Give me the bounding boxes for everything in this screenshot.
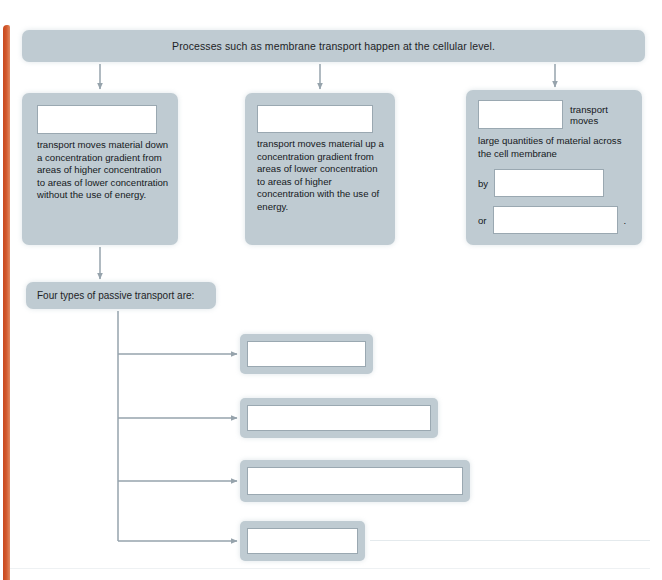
passive-type-answer-box-3[interactable] [240, 460, 470, 502]
active-transport-description: transport moves material up a concentrat… [257, 138, 386, 214]
worksheet-page: Processes such as membrane transport hap… [0, 0, 662, 580]
passive-type-input-3[interactable] [247, 467, 463, 495]
passive-type-input-1[interactable] [247, 341, 366, 367]
bulk-transport-or-label: or [478, 215, 487, 226]
top-banner: Processes such as membrane transport hap… [22, 30, 645, 62]
panel-active-transport: transport moves material up a concentrat… [245, 93, 395, 245]
passive-type-answer-box-2[interactable] [240, 398, 438, 438]
passive-transport-term-input[interactable] [37, 105, 157, 134]
bulk-transport-period: . [624, 215, 627, 226]
panel-passive-transport: transport moves material down a concentr… [22, 93, 178, 245]
passive-type-answer-box-1[interactable] [240, 334, 373, 374]
bulk-transport-term-input[interactable] [478, 100, 563, 129]
page-accent-stripe [3, 25, 10, 580]
bulk-transport-lead-text: transport moves [570, 104, 633, 126]
bulk-transport-by-label: by [478, 178, 488, 189]
bulk-transport-term-row: transport moves [478, 100, 633, 129]
passive-type-input-4[interactable] [247, 528, 358, 554]
four-types-heading-banner: Four types of passive transport are: [26, 282, 216, 309]
bulk-transport-or-row: or . [478, 206, 633, 234]
active-transport-term-input[interactable] [257, 105, 373, 133]
bulk-transport-by-input[interactable] [494, 169, 604, 197]
bulk-transport-by-row: by [478, 169, 633, 197]
paper-artifact-line-1 [370, 540, 650, 541]
panel-bulk-transport: transport moves large quantities of mate… [466, 90, 642, 245]
passive-type-input-2[interactable] [247, 405, 431, 431]
four-types-heading-text: Four types of passive transport are: [37, 290, 194, 301]
bulk-transport-or-input[interactable] [493, 206, 618, 234]
passive-type-answer-box-4[interactable] [240, 521, 365, 561]
paper-artifact-line-2 [10, 568, 650, 569]
top-banner-text: Processes such as membrane transport hap… [172, 40, 495, 52]
bulk-transport-description: large quantities of material across the … [478, 135, 633, 160]
passive-transport-description: transport moves material down a concentr… [37, 139, 169, 202]
